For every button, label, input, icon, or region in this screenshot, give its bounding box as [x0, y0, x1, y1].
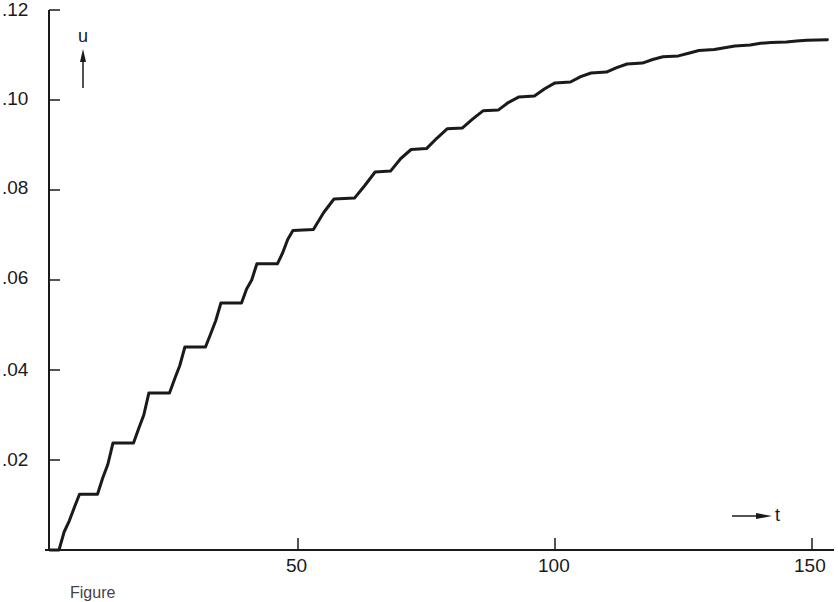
- data-curve: [50, 40, 827, 550]
- u-arrow-icon: [80, 49, 86, 88]
- t-arrow-icon: [732, 513, 772, 519]
- x-tick-label-150: 150: [794, 556, 826, 576]
- y-tick-label-002: .02: [2, 450, 28, 470]
- y-tick-label-008: .08: [2, 178, 28, 198]
- y-tick-label-010: .10: [2, 89, 28, 109]
- x-tick-label-50: 50: [286, 556, 307, 576]
- u-axis-label: u: [78, 26, 88, 47]
- y-tick-label-006: .06: [2, 268, 28, 288]
- x-ticks: [298, 538, 812, 550]
- t-axis-label: t: [775, 505, 780, 526]
- figure-caption: Figure: [70, 584, 115, 602]
- x-tick-label-100: 100: [538, 556, 570, 576]
- y-tick-label-004: .04: [2, 360, 28, 380]
- y-ticks: [49, 10, 60, 460]
- y-tick-label-012: .12: [2, 0, 28, 20]
